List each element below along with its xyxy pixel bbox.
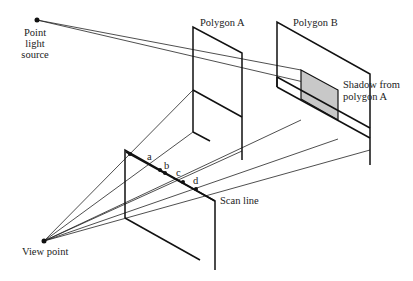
point-a-label: a xyxy=(147,151,152,162)
view-rays xyxy=(44,90,370,241)
view-ray-1 xyxy=(44,132,193,241)
view-ray-3 xyxy=(44,120,301,241)
point-b-marker-1 xyxy=(158,168,162,172)
point-c-label: c xyxy=(176,167,181,178)
scan-plane xyxy=(125,150,215,270)
polygon-a-bottom-edge xyxy=(193,132,210,141)
view-ray-6 xyxy=(44,90,193,241)
point-d-marker xyxy=(194,187,198,191)
shadow-region xyxy=(301,70,338,120)
view-point-dot xyxy=(42,239,47,244)
light-ray-top xyxy=(37,20,301,70)
polygon-a-label: Polygon A xyxy=(200,17,245,28)
polygon-b-label: Polygon B xyxy=(293,17,338,28)
light-source-label-3: source xyxy=(21,49,49,60)
scan-line-label: Scan line xyxy=(220,195,259,206)
point-b-label: b xyxy=(164,160,169,171)
point-a-marker xyxy=(128,152,132,156)
scan-plane-bottom-edge xyxy=(125,218,200,260)
light-source-label-2: light xyxy=(25,38,44,49)
scan-plane-outline xyxy=(125,150,215,270)
point-c-marker xyxy=(181,180,185,184)
point-d-label: d xyxy=(193,175,199,186)
scan-line xyxy=(126,152,215,201)
shadow-label-1: Shadow from xyxy=(343,79,400,90)
view-ray-4 xyxy=(44,139,338,241)
view-ray-5 xyxy=(44,150,370,241)
polygon-a-scan-edge xyxy=(193,90,242,117)
light-source-label-1: Point xyxy=(24,27,46,38)
point-b-marker-2 xyxy=(163,171,167,175)
view-point-label: View point xyxy=(22,246,68,257)
light-source-dot xyxy=(35,18,40,23)
shadow-label-2: polygon A xyxy=(343,91,387,102)
shadow-scanline-diagram: Point light source Polygon A Polygon B S… xyxy=(0,0,413,281)
polygon-a xyxy=(193,27,242,160)
